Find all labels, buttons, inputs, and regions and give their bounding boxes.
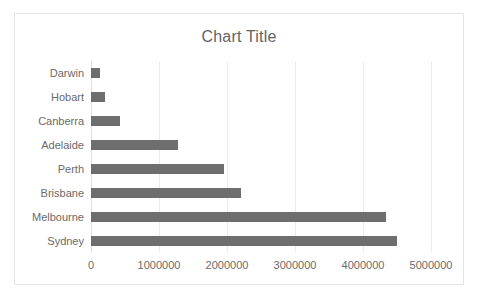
bar-row: Hobart xyxy=(91,85,431,109)
bar-row: Sydney xyxy=(91,229,431,253)
bar[interactable] xyxy=(91,188,241,198)
x-tick-label: 3000000 xyxy=(274,259,317,271)
bar-row: Brisbane xyxy=(91,181,431,205)
bar[interactable] xyxy=(91,236,397,246)
bar-row: Perth xyxy=(91,157,431,181)
bar[interactable] xyxy=(91,140,178,150)
chart-container[interactable]: Chart Title DarwinHobartCanberraAdelaide… xyxy=(14,13,464,285)
gridline xyxy=(431,61,432,253)
bar[interactable] xyxy=(91,92,105,102)
plot-area: DarwinHobartCanberraAdelaidePerthBrisban… xyxy=(91,61,431,253)
bar[interactable] xyxy=(91,68,100,78)
category-label[interactable]: Darwin xyxy=(50,64,84,82)
x-tick-label: 5000000 xyxy=(410,259,453,271)
x-tick-label: 4000000 xyxy=(342,259,385,271)
category-label[interactable]: Adelaide xyxy=(41,136,84,154)
category-label[interactable]: Melbourne xyxy=(32,208,84,226)
category-label[interactable]: Sydney xyxy=(47,232,84,250)
chart-title[interactable]: Chart Title xyxy=(15,28,463,46)
x-tick-label: 1000000 xyxy=(138,259,181,271)
category-label[interactable]: Canberra xyxy=(38,112,84,130)
bar[interactable] xyxy=(91,116,120,126)
x-tick-label: 2000000 xyxy=(206,259,249,271)
bar-row: Canberra xyxy=(91,109,431,133)
x-tick-label: 0 xyxy=(88,259,94,271)
category-label[interactable]: Hobart xyxy=(51,88,84,106)
bar-row: Melbourne xyxy=(91,205,431,229)
bar-row: Darwin xyxy=(91,61,431,85)
bar-row: Adelaide xyxy=(91,133,431,157)
bar[interactable] xyxy=(91,212,386,222)
category-label[interactable]: Brisbane xyxy=(41,184,84,202)
category-label[interactable]: Perth xyxy=(58,160,84,178)
bar[interactable] xyxy=(91,164,224,174)
